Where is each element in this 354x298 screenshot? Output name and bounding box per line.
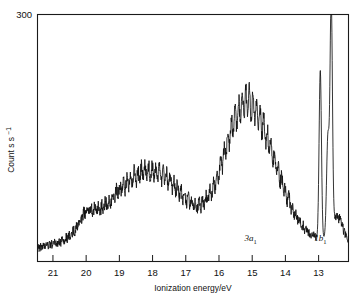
y-axis-title-exponent: −1 [5,127,12,135]
x-tick-label-13: 13 [313,267,324,278]
x-tick-label-16: 16 [214,267,225,278]
svg-text:Count s s: Count s s −1 [5,127,16,173]
y-axis-title-unit: s [6,137,16,141]
photoelectron-spectrum-figure: 212019181716151413 300 Count s s −1 Ioni… [0,0,354,298]
x-tick-label-19: 19 [114,267,125,278]
x-axis-tick-labels: 212019181716151413 [48,267,324,278]
spectrum-plot: 212019181716151413 300 Count s s −1 Ioni… [0,0,354,298]
y-axis-max-label: 300 [16,9,32,20]
plot-frame [38,15,349,262]
x-tick-label-17: 17 [180,267,191,278]
x-axis-ticks [53,255,319,261]
spectrum-trace [38,15,349,252]
x-tick-label-21: 21 [48,267,59,278]
x-tick-label-15: 15 [247,267,258,278]
y-axis-title: Count s s −1 [5,127,16,173]
band-label-3a1: 3a1 [243,233,256,245]
x-axis-title: Ionization energy/eV [154,283,232,293]
x-tick-label-20: 20 [81,267,92,278]
x-tick-label-14: 14 [280,267,291,278]
y-axis-title-base: Count s [6,144,16,173]
x-tick-label-18: 18 [147,267,158,278]
band-annotations: 3a11b1 [243,233,326,245]
